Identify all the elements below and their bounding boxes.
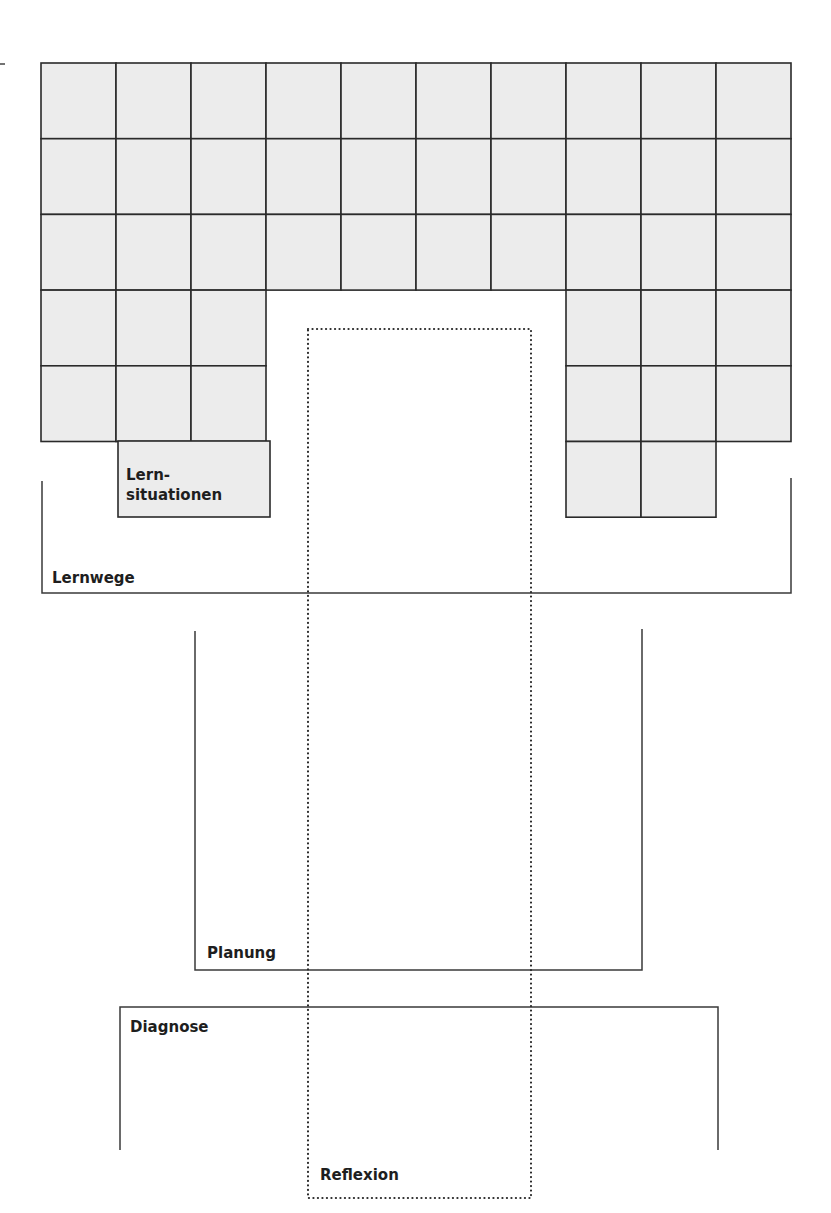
grid-cell bbox=[41, 139, 116, 215]
grid-cell bbox=[641, 290, 716, 366]
grid-cell bbox=[191, 139, 266, 215]
grid-cell bbox=[716, 290, 791, 366]
grid-cell bbox=[716, 366, 791, 442]
grid-cell bbox=[566, 214, 641, 290]
grid-cell bbox=[266, 63, 341, 139]
grid-cell bbox=[116, 63, 191, 139]
grid-cell bbox=[491, 63, 566, 139]
grid-cell bbox=[191, 214, 266, 290]
reflexion-dotted-frame bbox=[308, 329, 531, 1198]
grid-cell bbox=[341, 139, 416, 215]
grid-cell bbox=[41, 366, 116, 442]
grid-cell bbox=[716, 214, 791, 290]
grid-cell bbox=[341, 214, 416, 290]
lernwege-label: Lernwege bbox=[52, 569, 135, 587]
grid-cell bbox=[491, 214, 566, 290]
grid-cell bbox=[566, 63, 641, 139]
grid-cell bbox=[641, 63, 716, 139]
grid-cell bbox=[41, 63, 116, 139]
grid-cell bbox=[191, 366, 266, 442]
grid-cell bbox=[116, 366, 191, 442]
grid-cell bbox=[191, 63, 266, 139]
grid-cell bbox=[641, 214, 716, 290]
diagnose-label: Diagnose bbox=[130, 1018, 209, 1036]
grid-cell bbox=[416, 214, 491, 290]
grid-cell bbox=[341, 63, 416, 139]
grid-cell bbox=[566, 442, 641, 518]
grid-cell bbox=[716, 63, 791, 139]
reflexion-label: Reflexion bbox=[320, 1166, 399, 1184]
grid-cell bbox=[641, 139, 716, 215]
grid-cell bbox=[41, 214, 116, 290]
grid-cell bbox=[416, 139, 491, 215]
grid-cell bbox=[566, 366, 641, 442]
lernsituationen-label-line1: Lern- bbox=[126, 466, 170, 484]
diagnose-bracket bbox=[120, 1007, 718, 1150]
grid-cell bbox=[191, 290, 266, 366]
grid-cell bbox=[116, 139, 191, 215]
grid-cell bbox=[41, 290, 116, 366]
learning-diagram: Lern- situationen Lernwege Planung Diagn… bbox=[0, 0, 831, 1213]
grid-cell bbox=[566, 290, 641, 366]
grid-cell bbox=[266, 214, 341, 290]
grid-cell bbox=[116, 214, 191, 290]
planung-label: Planung bbox=[207, 944, 276, 962]
grid-cell bbox=[641, 442, 716, 518]
grid-cell bbox=[641, 366, 716, 442]
grid-cell bbox=[491, 139, 566, 215]
grid-cell bbox=[266, 139, 341, 215]
grid-cell bbox=[716, 139, 791, 215]
grid-cell bbox=[416, 63, 491, 139]
grid-cell bbox=[116, 290, 191, 366]
grid-cell bbox=[566, 139, 641, 215]
lernsituationen-label-line2: situationen bbox=[126, 486, 222, 504]
planung-bracket bbox=[195, 629, 642, 970]
